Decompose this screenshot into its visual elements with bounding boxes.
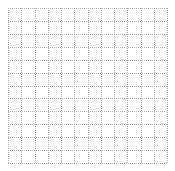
gridline-horizontal-3: [8, 47, 167, 48]
gridline-horizontal-6: [8, 86, 167, 87]
gridline-vertical-3: [48, 8, 49, 163]
gridline-horizontal-9: [8, 124, 167, 125]
gridline-vertical-11: [154, 8, 155, 163]
screenshot-canvas: [0, 0, 175, 171]
gridline-horizontal-10: [8, 137, 167, 138]
gridline-vertical-1: [21, 8, 22, 163]
gridline-horizontal-12: [8, 163, 167, 164]
gridline-horizontal-8: [8, 111, 167, 112]
gridline-vertical-10: [141, 8, 142, 163]
gridline-horizontal-4: [8, 60, 167, 61]
gridline-vertical-0: [8, 8, 9, 163]
gridline-vertical-9: [127, 8, 128, 163]
gridline-vertical-5: [74, 8, 75, 163]
gridline-horizontal-1: [8, 21, 167, 22]
gridline-horizontal-0: [8, 8, 167, 9]
gridline-horizontal-5: [8, 73, 167, 74]
grid-plot-area: [8, 8, 167, 163]
gridline-horizontal-11: [8, 150, 167, 151]
gridline-horizontal-2: [8, 34, 167, 35]
gridline-vertical-6: [88, 8, 89, 163]
gridline-vertical-8: [114, 8, 115, 163]
gridline-vertical-4: [61, 8, 62, 163]
gridline-horizontal-7: [8, 98, 167, 99]
gridline-vertical-12: [167, 8, 168, 163]
gridline-vertical-2: [35, 8, 36, 163]
gridline-vertical-7: [101, 8, 102, 163]
